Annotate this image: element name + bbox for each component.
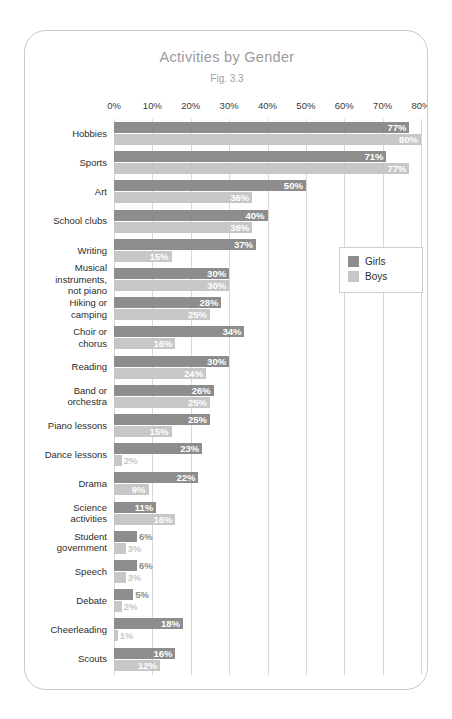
- chart-title: Activities by Gender: [25, 49, 428, 65]
- bar-boys: 16%: [114, 514, 175, 525]
- bar-value-label: 50%: [284, 180, 306, 191]
- category-label: Hiking orcamping: [28, 297, 114, 320]
- category-label: Speech: [28, 566, 114, 578]
- bar-boys: 25%: [114, 309, 210, 320]
- bar-girls: 26%: [114, 385, 214, 396]
- bar-group: Speech6%3%: [114, 560, 421, 584]
- category-label: Choir orchorus: [28, 326, 114, 349]
- bar-group: Cheerleading18%1%: [114, 618, 421, 642]
- bar-value-label: 36%: [230, 192, 252, 203]
- bar-value-label: 36%: [230, 222, 252, 233]
- bar-girls: 28%: [114, 297, 221, 308]
- plot-area: 0%10%20%30%40%50%60%70%80% Hobbies77%80%…: [114, 119, 421, 675]
- chart-card: Activities by Gender Fig. 3.3 0%10%20%30…: [24, 30, 428, 690]
- bar-value-label: 6%: [137, 560, 153, 571]
- category-label: Reading: [28, 361, 114, 373]
- bar-boys: 16%: [114, 338, 175, 349]
- legend-item-girls: Girls: [348, 254, 414, 269]
- bar-value-label: 12%: [138, 660, 160, 671]
- bar-value-label: 5%: [133, 589, 149, 600]
- bar-boys: 2%: [114, 601, 122, 612]
- chart-subtitle: Fig. 3.3: [25, 73, 428, 84]
- bar-value-label: 28%: [199, 297, 221, 308]
- bar-group: Reading30%24%: [114, 356, 421, 380]
- bar-boys: 36%: [114, 222, 252, 233]
- bar-value-label: 11%: [135, 502, 157, 513]
- bar-value-label: 16%: [153, 648, 175, 659]
- bar-value-label: 25%: [188, 414, 210, 425]
- bar-boys: 77%: [114, 163, 409, 174]
- bar-girls: 25%: [114, 414, 210, 425]
- bar-value-label: 1%: [118, 630, 134, 641]
- x-axis-tick-label: 80%: [411, 100, 428, 111]
- bar-girls: 77%: [114, 122, 409, 133]
- bar-group: Studentgovernment6%3%: [114, 531, 421, 555]
- x-axis-tick-label: 60%: [335, 100, 354, 111]
- bar-value-label: 30%: [207, 280, 229, 291]
- x-axis-tick-label: 10%: [143, 100, 162, 111]
- bar-value-label: 80%: [399, 134, 421, 145]
- bar-group: School clubs40%36%: [114, 210, 421, 234]
- bar-group: Art50%36%: [114, 180, 421, 204]
- bar-value-label: 2%: [122, 601, 138, 612]
- legend-label-girls: Girls: [365, 256, 386, 267]
- bar-boys: 15%: [114, 426, 172, 437]
- x-axis-tick-label: 0%: [107, 100, 121, 111]
- bar-girls: 40%: [114, 210, 268, 221]
- bar-boys: 30%: [114, 280, 229, 291]
- x-axis-tick-label: 30%: [220, 100, 239, 111]
- bar-value-label: 16%: [153, 514, 175, 525]
- x-axis-tick-label: 40%: [258, 100, 277, 111]
- x-axis-tick-label: 20%: [181, 100, 200, 111]
- legend-item-boys: Boys: [348, 269, 414, 284]
- bar-value-label: 16%: [153, 338, 175, 349]
- bar-girls: 6%: [114, 560, 137, 571]
- bar-value-label: 2%: [122, 455, 138, 466]
- bar-girls: 18%: [114, 618, 183, 629]
- bar-group: Scienceactivities11%16%: [114, 502, 421, 526]
- bar-boys: 3%: [114, 572, 126, 583]
- bar-value-label: 22%: [176, 472, 198, 483]
- bar-value-label: 30%: [207, 356, 229, 367]
- category-label: Scienceactivities: [28, 502, 114, 525]
- bar-value-label: 24%: [184, 368, 206, 379]
- bar-girls: 30%: [114, 268, 229, 279]
- bar-group: Debate5%2%: [114, 589, 421, 613]
- bar-value-label: 30%: [207, 268, 229, 279]
- bar-boys: 1%: [114, 630, 118, 641]
- bar-girls: 6%: [114, 531, 137, 542]
- category-label: Studentgovernment: [28, 531, 114, 554]
- bar-boys: 15%: [114, 251, 172, 262]
- category-label: Scouts: [28, 653, 114, 665]
- category-label: Drama: [28, 478, 114, 490]
- bar-group: Sports71%77%: [114, 151, 421, 175]
- bar-girls: 50%: [114, 180, 306, 191]
- bar-boys: 12%: [114, 660, 160, 671]
- gridline: [421, 119, 422, 675]
- category-label: Piano lessons: [28, 420, 114, 432]
- bar-girls: 11%: [114, 502, 156, 513]
- bar-girls: 16%: [114, 648, 175, 659]
- category-label: Debate: [28, 595, 114, 607]
- category-label: Musicalinstruments,not piano: [28, 262, 114, 297]
- bar-boys: 2%: [114, 455, 122, 466]
- bar-value-label: 15%: [150, 426, 172, 437]
- bar-value-label: 3%: [126, 572, 142, 583]
- bar-value-label: 23%: [180, 443, 202, 454]
- bar-value-label: 18%: [161, 618, 183, 629]
- bar-girls: 71%: [114, 151, 386, 162]
- bar-value-label: 26%: [192, 385, 214, 396]
- bar-value-label: 9%: [132, 484, 149, 495]
- x-axis-tick-label: 50%: [296, 100, 315, 111]
- category-label: Cheerleading: [28, 624, 114, 636]
- category-label: Sports: [28, 157, 114, 169]
- bar-value-label: 25%: [188, 397, 210, 408]
- bar-boys: 36%: [114, 192, 252, 203]
- bar-groups: Hobbies77%80%Sports71%77%Art50%36%School…: [114, 119, 421, 675]
- bar-value-label: 3%: [126, 543, 142, 554]
- bar-group: Piano lessons25%15%: [114, 414, 421, 438]
- bar-value-label: 71%: [364, 151, 386, 162]
- bar-boys: 80%: [114, 134, 421, 145]
- bar-girls: 5%: [114, 589, 133, 600]
- bar-value-label: 34%: [222, 326, 244, 337]
